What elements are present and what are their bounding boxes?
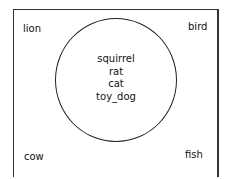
label-bird: bird <box>188 21 207 33</box>
label-cow: cow <box>24 151 44 163</box>
label-lion: lion <box>23 23 41 35</box>
circle-item: squirrel <box>55 53 177 66</box>
circle-item: rat <box>55 66 177 79</box>
circle-items: squirrel rat cat toy_dog <box>55 53 177 103</box>
label-fish: fish <box>185 149 203 161</box>
circle-item: toy_dog <box>55 91 177 104</box>
circle-item: cat <box>55 78 177 91</box>
